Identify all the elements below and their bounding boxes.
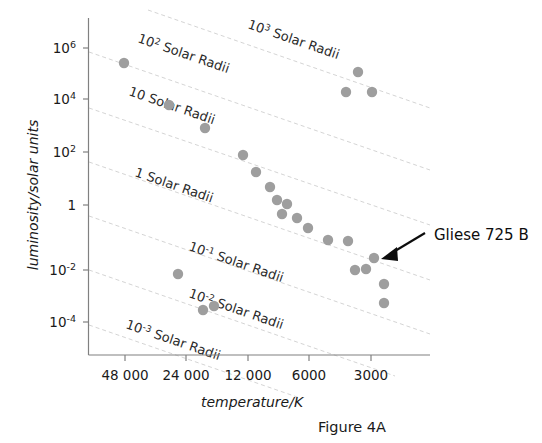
y-tick-label-1: 1 bbox=[67, 197, 76, 213]
data-point bbox=[369, 253, 379, 263]
y-tick-label-1e-2: 10-2 bbox=[49, 261, 76, 278]
data-point bbox=[164, 100, 174, 110]
reference-label-r1: 1 Solar Radii bbox=[133, 165, 215, 206]
y-tick-label-1e6: 106 bbox=[53, 39, 76, 56]
y-tick-labels-group: 106 104 102 1 10-2 10-4 bbox=[49, 39, 76, 330]
figure-caption: Figure 4A bbox=[318, 419, 386, 435]
x-tick-label-6000: 6000 bbox=[292, 367, 326, 383]
data-point bbox=[251, 167, 261, 177]
data-point bbox=[379, 298, 389, 308]
data-point bbox=[350, 265, 360, 275]
y-tick-label-1e2: 102 bbox=[53, 143, 76, 160]
data-point bbox=[209, 301, 219, 311]
reference-label-r1000: 103 Solar Radii bbox=[246, 17, 342, 62]
data-point bbox=[361, 264, 371, 274]
reference-lines-group bbox=[89, 10, 430, 398]
hr-diagram-plot: 102 Solar Radii 103 Solar Radii 10 Solar… bbox=[0, 0, 542, 443]
y-tick-label-1e4: 104 bbox=[53, 90, 76, 107]
data-point bbox=[323, 235, 333, 245]
figure-container: 102 Solar Radii 103 Solar Radii 10 Solar… bbox=[0, 0, 542, 443]
data-point bbox=[379, 279, 389, 289]
data-point bbox=[119, 58, 129, 68]
x-tick-label-3000: 3000 bbox=[354, 367, 388, 383]
data-point bbox=[353, 67, 363, 77]
data-point bbox=[343, 236, 353, 246]
data-point bbox=[198, 305, 208, 315]
reference-label-r100: 102 Solar Radii bbox=[136, 31, 232, 76]
x-tick-label-48000: 48 000 bbox=[101, 367, 148, 383]
reference-labels-group: 102 Solar Radii 103 Solar Radii 10 Solar… bbox=[124, 17, 342, 363]
reference-line-r100 bbox=[89, 52, 430, 170]
data-point bbox=[238, 150, 248, 160]
x-tick-labels-group: 48 000 24 000 12 000 6000 3000 bbox=[101, 367, 388, 383]
data-point bbox=[367, 87, 377, 97]
data-point bbox=[341, 87, 351, 97]
annotation-arrow-head bbox=[381, 247, 398, 261]
data-point bbox=[200, 123, 210, 133]
data-point bbox=[272, 195, 282, 205]
x-tick-label-12000: 12 000 bbox=[224, 367, 271, 383]
reference-label-r0p001: 10-3 Solar Radii bbox=[124, 317, 223, 363]
reference-line-r0p001 bbox=[89, 325, 300, 398]
annotation-label-gliese-725-b: Gliese 725 B bbox=[434, 226, 529, 244]
data-point bbox=[277, 209, 287, 219]
data-point bbox=[292, 213, 302, 223]
x-tick-label-24000: 24 000 bbox=[162, 367, 209, 383]
data-point bbox=[282, 199, 292, 209]
x-axis-title: temperature/K bbox=[201, 394, 305, 410]
annotation-gliese-725-b bbox=[381, 233, 425, 261]
data-point bbox=[173, 269, 183, 279]
data-point bbox=[265, 182, 275, 192]
y-axis-title: luminosity/solar units bbox=[25, 120, 41, 270]
y-tick-label-1e-4: 10-4 bbox=[49, 313, 76, 330]
data-point bbox=[303, 223, 313, 233]
reference-label-r0p1: 10-1 Solar Radii bbox=[187, 239, 286, 285]
